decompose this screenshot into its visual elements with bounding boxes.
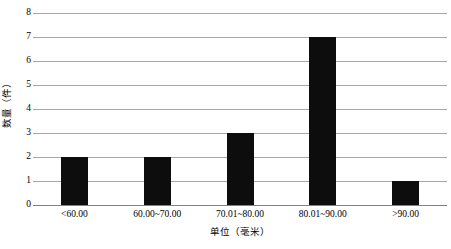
x-axis-tick-labels: <60.0060.00~70.0070.01~80.0080.01~90.00>… (33, 208, 447, 224)
bar-chart: 数量（件） 012345678 <60.0060.00~70.0070.01~8… (0, 0, 451, 249)
x-axis-title: 单位（毫米） (33, 228, 447, 238)
bars-group (33, 13, 447, 205)
bar (309, 37, 336, 205)
y-axis-tick-label: 7 (14, 32, 31, 42)
axis-baseline (33, 205, 447, 206)
y-axis-tick-label: 2 (14, 152, 31, 162)
y-axis-tick-label: 4 (14, 104, 31, 114)
x-axis-tick-label: <60.00 (33, 208, 116, 220)
bar (227, 133, 254, 205)
x-axis-tick-label: 60.00~70.00 (116, 208, 199, 220)
y-axis-tick-labels: 012345678 (14, 0, 31, 249)
y-axis-tick-label: 0 (14, 200, 31, 210)
y-axis-tick-label: 1 (14, 176, 31, 186)
bar (61, 157, 88, 205)
y-axis-tick-label: 5 (14, 80, 31, 90)
x-axis-tick-label: >90.00 (364, 208, 447, 220)
plot-area (33, 13, 447, 205)
bar (392, 181, 419, 205)
y-axis-tick-label: 6 (14, 56, 31, 66)
y-axis-tick-label: 8 (14, 8, 31, 18)
y-axis-tick-label: 3 (14, 128, 31, 138)
bar (144, 157, 171, 205)
x-axis-tick-label: 70.01~80.00 (199, 208, 282, 220)
y-axis-title-text: 数量（件） (3, 78, 13, 128)
x-axis-tick-label: 80.01~90.00 (281, 208, 364, 220)
